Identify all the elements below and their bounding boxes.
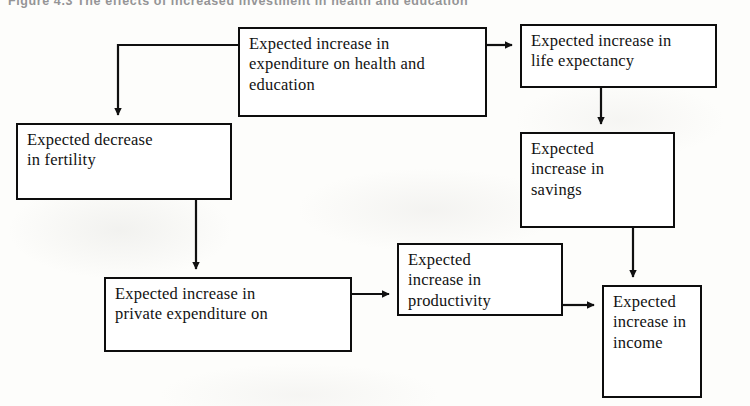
node-savings-label: Expected increase in savings [531, 139, 666, 200]
node-private-expenditure: Expected increase in private expenditure… [104, 277, 352, 352]
node-productivity: Expected increase in productivity [397, 243, 563, 316]
node-fertility: Expected decrease in fertility [16, 123, 232, 200]
figure-page: Figure 4.3 The effects of increased inve… [0, 0, 750, 406]
node-life-expectancy: Expected increase in life expectancy [520, 24, 717, 88]
node-life-expectancy-label: Expected increase in life expectancy [531, 31, 708, 72]
edge-health-to-fertility [118, 45, 238, 115]
node-savings: Expected increase in savings [520, 132, 675, 228]
node-health-education-label: Expected increase in expenditure on heal… [249, 34, 478, 95]
node-productivity-label: Expected increase in productivity [408, 250, 554, 311]
node-income: Expected increase in income [602, 285, 702, 398]
node-private-expenditure-label: Expected increase in private expenditure… [115, 284, 343, 325]
node-income-label: Expected increase in income [613, 292, 693, 353]
node-fertility-label: Expected decrease in fertility [27, 130, 223, 171]
node-health-education: Expected increase in expenditure on heal… [238, 27, 487, 117]
figure-caption: Figure 4.3 The effects of increased inve… [8, 0, 648, 8]
